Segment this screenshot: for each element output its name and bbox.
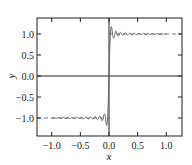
y-tick-label: −0.5	[16, 92, 34, 103]
x-tick-label: −1.0	[43, 140, 61, 151]
x-axis-ticks: −1.0−0.50.00.51.0	[43, 18, 173, 151]
chart: −1.0−0.50.00.51.0 1.00.50.0−0.5−1.0 x y	[0, 0, 192, 165]
x-tick-label: −0.5	[71, 140, 89, 151]
x-tick-label: 0.5	[131, 140, 144, 151]
y-tick-label: −1.0	[16, 113, 34, 124]
y-tick-label: 0.0	[22, 71, 35, 82]
x-tick-label: 1.0	[160, 140, 173, 151]
plot-area	[37, 18, 182, 136]
y-axis-title: y	[5, 73, 17, 79]
y-tick-label: 1.0	[22, 29, 35, 40]
y-tick-label: 0.5	[22, 50, 35, 61]
x-axis-title: x	[106, 150, 112, 162]
